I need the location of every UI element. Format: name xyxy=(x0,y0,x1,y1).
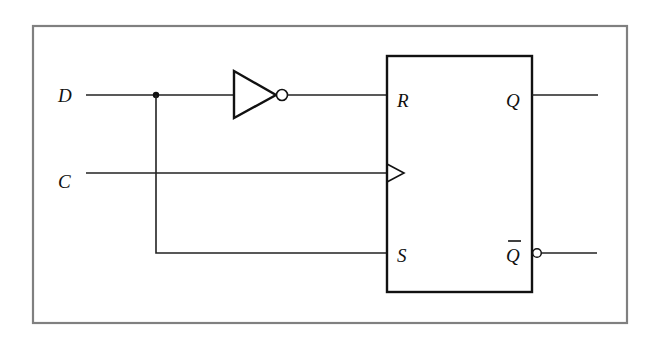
inverter-gate xyxy=(234,71,288,118)
pin-label-qbar: Q xyxy=(506,245,520,266)
wire-s xyxy=(156,95,387,253)
pin-label-r: R xyxy=(396,90,409,111)
pin-label-s: S xyxy=(397,245,407,266)
pin-label-q: Q xyxy=(506,90,520,111)
outer-frame xyxy=(33,26,627,323)
inverter-triangle-icon xyxy=(234,71,276,118)
input-label-d: D xyxy=(57,85,72,106)
input-label-c: C xyxy=(58,171,71,192)
sr-flipflop: R S Q Q xyxy=(387,56,532,292)
circuit-diagram: D C R S Q Q xyxy=(0,0,655,339)
inverter-bubble-icon xyxy=(277,90,288,101)
qbar-bubble-icon xyxy=(533,249,542,258)
